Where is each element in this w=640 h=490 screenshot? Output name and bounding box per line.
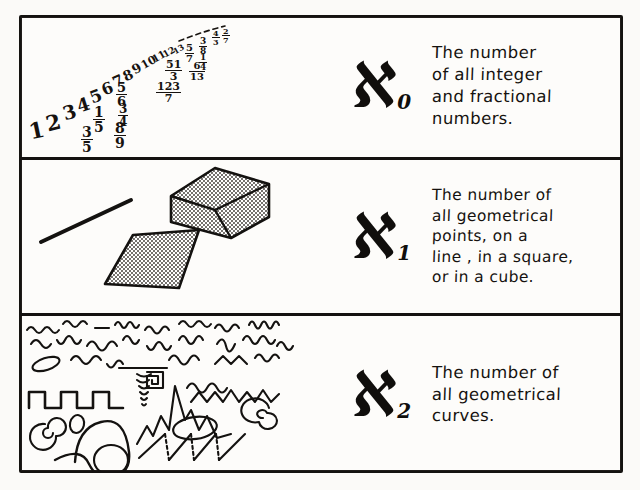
- line-square-cube-figures: [19, 160, 319, 313]
- fraction-123-7: 1237: [156, 81, 181, 104]
- zigzag-shape: [139, 434, 245, 460]
- fraction-1-4: 14: [199, 53, 207, 72]
- fraction-2-7: 27: [222, 27, 230, 44]
- caption-aleph-1: The number of all geometrical points, on…: [424, 160, 623, 313]
- assorted-curves-figures: [19, 316, 319, 473]
- aleph-0-symbol: ℵ 0: [314, 15, 434, 157]
- integers-and-fractions-ladder: 1 2 3 4 5 6 7 8 9 10 11 12 13 35: [19, 15, 319, 157]
- caption-line: line , in a square,: [432, 247, 624, 268]
- square-wave-shape: [29, 392, 123, 408]
- caption-line: all geometrical: [432, 384, 624, 406]
- figure-canvas: 1 2 3 4 5 6 7 8 9 10 11 12 13 35: [0, 0, 640, 490]
- wavy-squiggles-shape: [71, 355, 279, 368]
- caption-line: The number: [432, 42, 624, 64]
- big-circle-shape: [94, 445, 128, 473]
- caption-line: The number of: [432, 362, 624, 384]
- small-ellipse-shape: [68, 414, 85, 435]
- caption-line: and fractional: [432, 86, 624, 108]
- aleph-1-symbol: ℵ 1: [314, 160, 434, 313]
- caption-line: The number of: [432, 185, 624, 206]
- caption-line: curves.: [432, 405, 624, 427]
- fraction-5-6: 56: [116, 81, 127, 109]
- fraction-5-7: 57: [185, 43, 194, 64]
- spiral-right-shape: [241, 398, 277, 429]
- aleph-2-symbol: ℵ 2: [314, 316, 434, 473]
- line-segment-shape: [41, 200, 131, 242]
- caption-aleph-2: The number of all geometrical curves.: [424, 316, 623, 473]
- small-oval-shape: [31, 354, 61, 374]
- caption-aleph-0: The number of all integer and fractional…: [424, 15, 623, 157]
- fraction-1-5: 15: [93, 105, 105, 135]
- aleph-glyph: ℵ: [349, 205, 399, 268]
- row-aleph-1: ℵ 1 The number of all geometrical points…: [19, 160, 623, 313]
- caption-line: all geometrical: [432, 206, 624, 227]
- aleph-glyph: ℵ: [349, 55, 399, 118]
- row-aleph-2: ℵ 2 The number of all geometrical curves…: [19, 316, 623, 473]
- caption-line: points, on a: [432, 226, 624, 247]
- aleph-subscript: 0: [397, 92, 411, 112]
- square-parallelogram-shape: [105, 230, 199, 288]
- fraction-51-3: 513: [165, 59, 182, 82]
- row-aleph-0: 1 2 3 4 5 6 7 8 9 10 11 12 13 35: [19, 15, 623, 157]
- caption-line: or in a cube.: [432, 267, 624, 288]
- fraction-3-5: 35: [81, 125, 93, 155]
- aleph-subscript: 1: [397, 243, 411, 263]
- zigzag-shape: [187, 384, 279, 403]
- cube-shape: [171, 168, 269, 238]
- spiral-left-shape: [30, 418, 66, 450]
- fraction-4-3: 43: [212, 29, 220, 46]
- hook-curve-shape: [119, 368, 167, 406]
- caption-line: numbers.: [432, 108, 624, 130]
- aleph-subscript: 2: [397, 401, 411, 421]
- aleph-glyph: ℵ: [349, 363, 399, 426]
- caption-line: of all integer: [432, 64, 624, 86]
- wavy-squiggles-shape: [27, 321, 293, 352]
